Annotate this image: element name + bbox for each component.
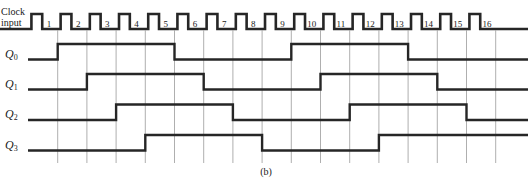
pulse-number: 5 [159,20,173,29]
q0-sub: 0 [14,53,18,62]
pulse-number: 13 [392,20,406,29]
q1-name: Q [5,77,14,91]
pulse-number: 9 [276,20,290,29]
clock-label-line2: input [1,17,25,28]
pulse-number: 15 [451,20,465,29]
waveform-q0 [28,44,528,60]
clock-label-line1: Clock [1,6,25,17]
pulse-number: 4 [130,20,144,29]
q3-name: Q [5,138,14,152]
waveforms-group [0,14,528,151]
waveform-q2 [28,105,528,121]
pulse-number: 3 [100,20,114,29]
pulse-number: 11 [334,20,348,29]
pulse-number: 1 [42,20,56,29]
q3-sub: 3 [14,144,18,153]
pulse-number: 7 [217,20,231,29]
q2-sub: 2 [14,113,18,122]
waveform-q1 [28,74,528,90]
q2-name: Q [5,107,14,121]
signal-label-q1: Q1 [5,78,18,92]
clock-input-label: Clock input [1,6,25,28]
q1-sub: 1 [14,83,18,92]
pulse-number: 16 [480,20,494,29]
gridlines-group [58,31,496,164]
pulse-number: 12 [363,20,377,29]
signal-label-q2: Q2 [5,108,18,122]
figure-caption: (b) [0,166,532,177]
pulse-number: 2 [71,20,85,29]
pulse-number: 10 [305,20,319,29]
pulse-number: 6 [188,20,202,29]
waveform-q3 [28,135,528,151]
pulse-number: 8 [246,20,260,29]
pulse-number: 14 [422,20,436,29]
signal-label-q3: Q3 [5,139,18,153]
signal-label-q0: Q0 [5,48,18,62]
q0-name: Q [5,47,14,61]
